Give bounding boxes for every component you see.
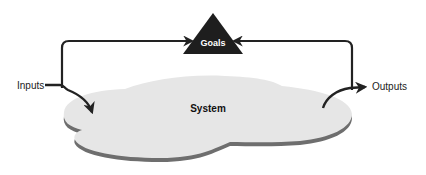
system-goals-diagram: Goals Inputs Outputs System (0, 0, 426, 175)
goals-node: Goals (183, 13, 243, 54)
goals-label: Goals (200, 38, 225, 48)
system-platform (64, 76, 352, 162)
system-label: System (190, 103, 226, 114)
system-platform-surface (64, 76, 352, 158)
outputs-label: Outputs (372, 81, 407, 92)
inputs-label: Inputs (17, 80, 44, 91)
